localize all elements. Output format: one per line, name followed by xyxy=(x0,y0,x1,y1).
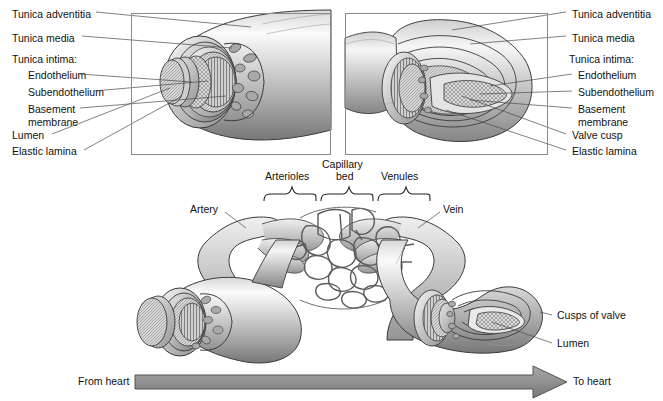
brace-arterioles xyxy=(264,187,316,201)
brace-venules xyxy=(378,187,430,201)
blood-flow-arrow xyxy=(135,366,567,398)
vein-panel-border xyxy=(345,13,548,155)
artery-panel-border xyxy=(131,13,331,155)
figure-canvas xyxy=(0,0,663,401)
brace-capillary-bed xyxy=(321,187,373,201)
